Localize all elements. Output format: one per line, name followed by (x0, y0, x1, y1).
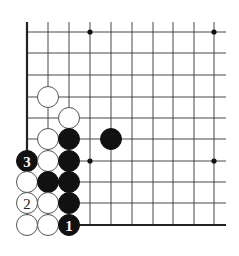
black-stone-icon (38, 172, 59, 193)
stone-white (17, 172, 38, 193)
stone-black (38, 172, 59, 193)
white-stone-icon (38, 193, 59, 214)
white-stone-icon (59, 108, 80, 129)
white-stone-icon (38, 129, 59, 150)
stone-black-move-1: 1 (59, 215, 80, 236)
black-stone-icon (59, 193, 80, 214)
stone-white (59, 108, 80, 129)
move-number-label: 2 (23, 196, 31, 212)
board-grid (27, 22, 226, 225)
star-point-icon (211, 29, 216, 34)
stone-black (59, 172, 80, 193)
go-board-diagram: 321 (0, 0, 239, 256)
stone-white (38, 215, 59, 236)
stone-black (59, 193, 80, 214)
move-number-label: 3 (23, 154, 31, 170)
stone-black (101, 129, 122, 150)
black-stone-icon (101, 129, 122, 150)
stone-white (38, 129, 59, 150)
white-stone-icon (38, 215, 59, 236)
black-stone-icon (59, 151, 80, 172)
stone-white (38, 151, 59, 172)
white-stone-icon (38, 87, 59, 108)
white-stone-icon (17, 215, 38, 236)
stone-white (38, 87, 59, 108)
star-point-icon (87, 158, 92, 163)
stone-white (38, 193, 59, 214)
star-point-icon (87, 29, 92, 34)
white-stone-icon (38, 151, 59, 172)
stone-black (59, 151, 80, 172)
black-stone-icon (59, 172, 80, 193)
stone-black (59, 129, 80, 150)
white-stone-icon (17, 172, 38, 193)
move-number-label: 1 (65, 218, 73, 234)
stone-white-move-2: 2 (17, 193, 38, 214)
stone-white (17, 215, 38, 236)
star-point-icon (211, 158, 216, 163)
stone-black-move-3: 3 (17, 151, 38, 172)
black-stone-icon (59, 129, 80, 150)
